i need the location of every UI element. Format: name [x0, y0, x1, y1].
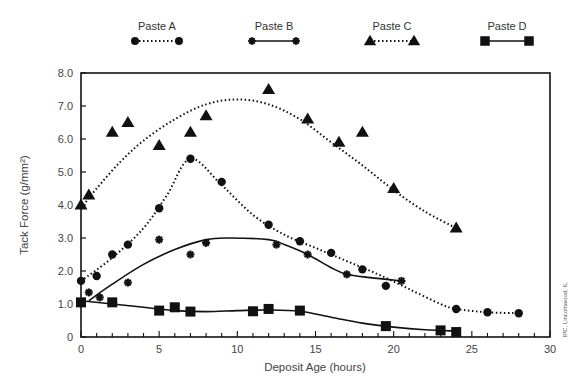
x-axis-title: Deposit Age (hours) [264, 361, 366, 373]
legend: Paste APaste BPaste CPaste D [131, 20, 534, 46]
legend-item-paste-d: Paste D [480, 20, 534, 46]
legend-item-paste-b: Paste B [248, 20, 300, 45]
y-tick-label: 7.0 [58, 100, 73, 112]
svg-text:Paste A: Paste A [138, 20, 177, 32]
x-axis: 051015202530 [78, 331, 556, 355]
y-tick-label: 6.0 [58, 133, 73, 145]
x-tick-label: 25 [466, 343, 478, 355]
svg-text:Paste D: Paste D [487, 20, 526, 32]
series-layer [75, 83, 523, 337]
y-tick-label: 5.0 [58, 166, 73, 178]
source-credit: IPC, Lincolnwood, IL [562, 282, 568, 338]
y-tick-label: 8.0 [58, 67, 73, 79]
tack-force-chart: Paste APaste BPaste CPaste D 01.02.03.04… [0, 0, 588, 392]
y-tick-label: 1.0 [58, 298, 73, 310]
svg-text:Paste C: Paste C [372, 20, 411, 32]
y-tick-label: 2.0 [58, 265, 73, 277]
legend-item-paste-a: Paste A [131, 20, 183, 45]
x-tick-label: 5 [156, 343, 162, 355]
legend-item-paste-c: Paste C [364, 20, 420, 45]
x-tick-label: 10 [231, 343, 243, 355]
y-tick-label: 3.0 [58, 232, 73, 244]
x-tick-label: 30 [544, 343, 556, 355]
y-tick-label: 4.0 [58, 199, 73, 211]
svg-text:Paste B: Paste B [255, 20, 294, 32]
y-tick-label: 0 [67, 331, 73, 343]
plot-area [81, 73, 550, 337]
series-paste-c [75, 83, 463, 233]
x-tick-label: 15 [309, 343, 321, 355]
x-tick-label: 0 [78, 343, 84, 355]
y-axis-title: Tack Force (g/mm²) [18, 155, 30, 255]
series-paste-b [85, 236, 406, 302]
series-paste-a [77, 155, 523, 318]
series-paste-d [76, 297, 461, 337]
x-tick-label: 20 [388, 343, 400, 355]
